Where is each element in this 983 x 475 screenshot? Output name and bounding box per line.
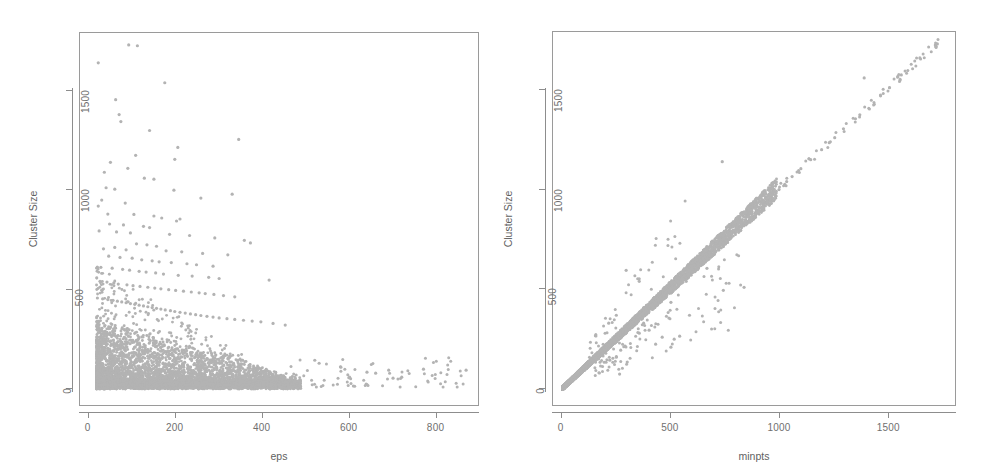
x-tick-right-2 <box>779 412 780 418</box>
y-tick-label-right-3: 1500 <box>553 89 564 112</box>
y-tick-left-1 <box>66 289 72 290</box>
x-tick-label-right-1: 500 <box>661 422 678 433</box>
plot-frame-left <box>79 32 479 406</box>
x-tick-label-left-2: 400 <box>253 422 270 433</box>
x-tick-left-4 <box>436 412 437 418</box>
x-tick-right-1 <box>670 412 671 418</box>
x-tick-right-3 <box>888 412 889 418</box>
x-axis-line-left <box>79 412 479 413</box>
y-tick-right-2 <box>539 189 545 190</box>
y-axis-title-left: Cluster Size <box>27 191 39 248</box>
y-tick-right-3 <box>539 89 545 90</box>
y-tick-label-right-1: 500 <box>547 288 558 305</box>
y-axis-line-right <box>545 88 546 392</box>
y-tick-right-1 <box>539 288 545 289</box>
x-tick-label-right-3: 1500 <box>877 422 900 433</box>
y-tick-label-right-2: 1000 <box>553 189 564 212</box>
y-tick-left-3 <box>66 90 72 91</box>
y-tick-left-2 <box>66 189 72 190</box>
panel-eps-vs-cluster-size: 0200400600800 050010001500 eps Cluster S… <box>0 0 490 475</box>
x-tick-label-left-1: 200 <box>166 422 183 433</box>
x-tick-label-right-2: 1000 <box>768 422 791 433</box>
y-tick-label-left-2: 1000 <box>80 189 91 212</box>
y-axis-line-left <box>72 88 73 392</box>
x-axis-title-left: eps <box>271 450 288 462</box>
plot-points-right <box>553 32 955 405</box>
y-axis-title-right: Cluster Size <box>502 191 514 248</box>
scatter-plot-figure: 0200400600800 050010001500 eps Cluster S… <box>0 0 983 475</box>
panel-minpts-vs-cluster-size: 050010001500 050010001500 minpts Cluster… <box>490 0 983 475</box>
x-tick-left-0 <box>88 412 89 418</box>
y-tick-label-right-0: 0 <box>535 388 546 394</box>
x-tick-left-1 <box>175 412 176 418</box>
x-axis-title-right: minpts <box>739 450 770 462</box>
y-tick-label-left-1: 500 <box>74 289 85 306</box>
y-tick-label-left-0: 0 <box>62 388 73 394</box>
x-tick-label-left-4: 800 <box>427 422 444 433</box>
x-tick-label-left-3: 600 <box>340 422 357 433</box>
x-tick-left-3 <box>349 412 350 418</box>
x-tick-label-right-0: 0 <box>558 422 564 433</box>
x-tick-label-left-0: 0 <box>85 422 91 433</box>
plot-frame-right <box>552 31 956 406</box>
y-tick-label-left-3: 1500 <box>80 90 91 113</box>
x-axis-line-right <box>552 412 956 413</box>
plot-points-left <box>80 33 478 405</box>
x-tick-right-0 <box>561 412 562 418</box>
x-tick-left-2 <box>262 412 263 418</box>
